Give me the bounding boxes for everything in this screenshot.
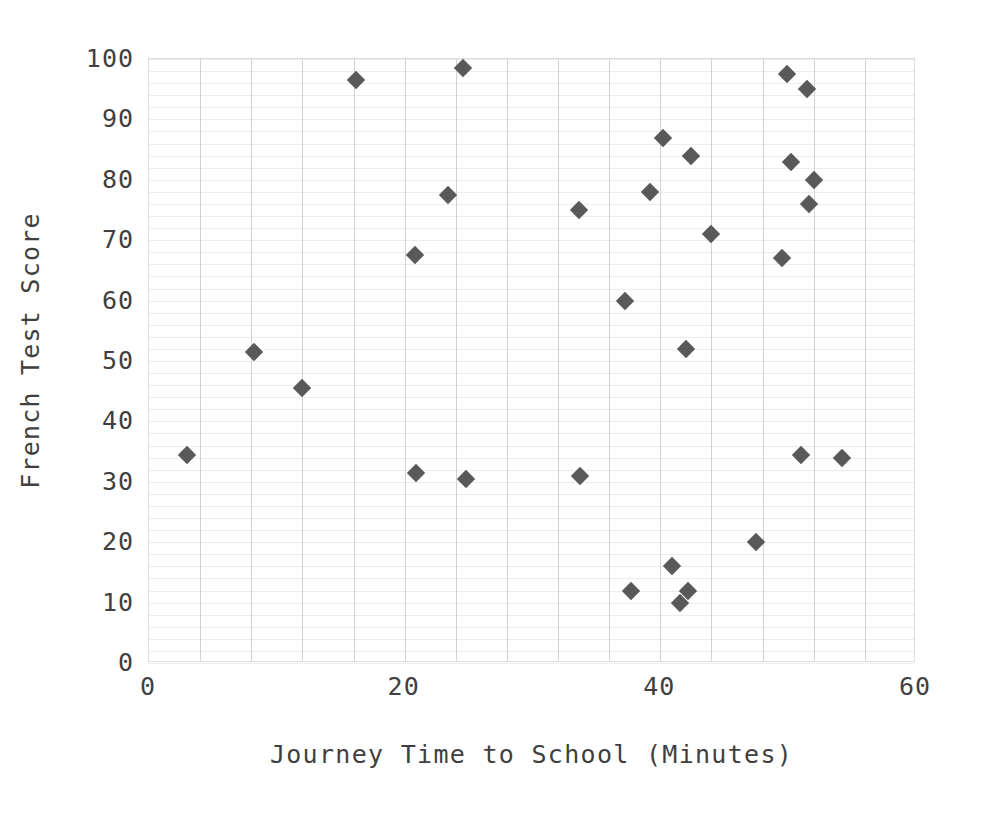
- x-tick-label: 0: [140, 672, 156, 701]
- data-point: [439, 186, 457, 204]
- data-point: [571, 467, 589, 485]
- y-tick-label: 30: [102, 466, 134, 495]
- y-tick-label: 40: [102, 406, 134, 435]
- x-axis-tick-labels: 0204060: [0, 672, 983, 712]
- data-point: [178, 445, 196, 463]
- y-tick-label: 60: [102, 285, 134, 314]
- y-tick-label: 10: [102, 587, 134, 616]
- x-tick-label: 20: [388, 672, 420, 701]
- data-point: [654, 128, 672, 146]
- y-tick-label: 100: [86, 44, 134, 73]
- data-point: [245, 343, 263, 361]
- data-point: [778, 65, 796, 83]
- data-point: [407, 464, 425, 482]
- data-point: [293, 379, 311, 397]
- data-point: [805, 171, 823, 189]
- gridline-horizontal: [149, 663, 914, 664]
- data-points-layer: [149, 59, 914, 661]
- data-point: [406, 246, 424, 264]
- data-point: [682, 146, 700, 164]
- data-point: [663, 557, 681, 575]
- x-tick-label: 60: [899, 672, 931, 701]
- data-point: [799, 195, 817, 213]
- data-point: [702, 225, 720, 243]
- data-point: [454, 59, 472, 77]
- data-point: [833, 448, 851, 466]
- y-tick-label: 20: [102, 527, 134, 556]
- data-point: [615, 291, 633, 309]
- data-point: [792, 445, 810, 463]
- scatter-chart: French Test Score 0102030405060708090100…: [0, 0, 983, 814]
- data-point: [347, 71, 365, 89]
- data-point: [677, 340, 695, 358]
- y-axis-title-text: French Test Score: [16, 212, 45, 488]
- y-tick-label: 70: [102, 225, 134, 254]
- y-axis-title: French Test Score: [0, 0, 60, 700]
- data-point: [641, 183, 659, 201]
- data-point: [569, 201, 587, 219]
- y-tick-label: 80: [102, 164, 134, 193]
- plot-area: [148, 58, 915, 662]
- y-tick-label: 90: [102, 104, 134, 133]
- x-axis-title: Journey Time to School (Minutes): [148, 740, 915, 769]
- y-tick-label: 50: [102, 346, 134, 375]
- data-point: [457, 470, 475, 488]
- data-point: [622, 581, 640, 599]
- x-tick-label: 40: [643, 672, 675, 701]
- data-point: [773, 249, 791, 267]
- data-point: [782, 152, 800, 170]
- data-point: [747, 533, 765, 551]
- data-point: [798, 80, 816, 98]
